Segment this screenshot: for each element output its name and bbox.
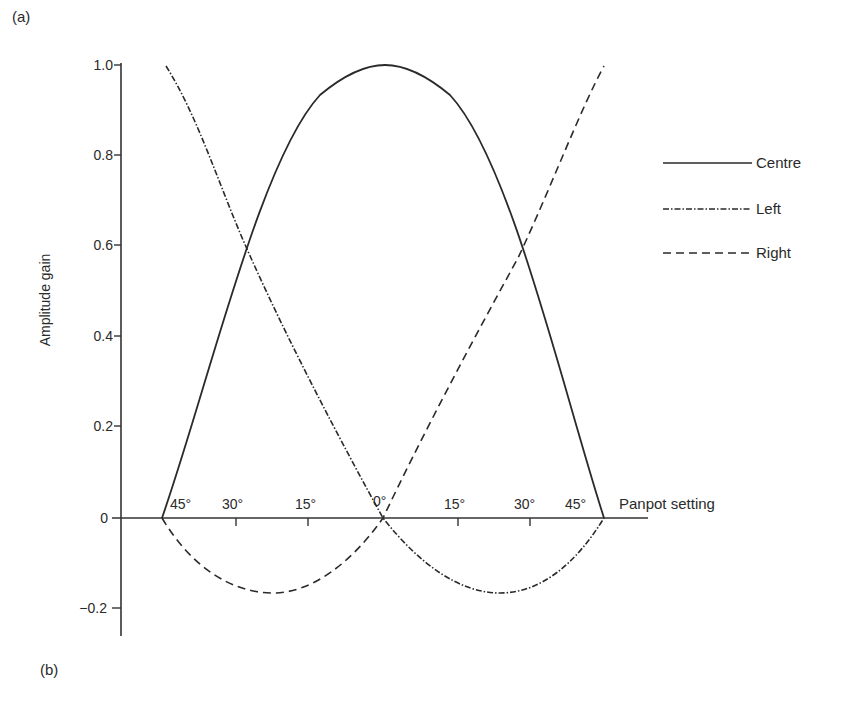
series-left-line xyxy=(166,66,604,593)
svg-text:−0.2: −0.2 xyxy=(79,600,107,616)
y-ticks xyxy=(112,65,121,608)
svg-text:30°: 30° xyxy=(222,496,243,512)
legend-left-label: Left xyxy=(756,200,782,217)
panpot-chart: (a) (b) 1.0 0.8 0.6 0.4 0.2 0 −0.2 Ampli… xyxy=(0,0,845,701)
svg-text:45°: 45° xyxy=(565,496,586,512)
svg-text:1.0: 1.0 xyxy=(94,57,114,73)
svg-text:0.8: 0.8 xyxy=(94,147,114,163)
svg-text:0.6: 0.6 xyxy=(94,237,114,253)
svg-text:30°: 30° xyxy=(514,496,535,512)
legend-centre-label: Centre xyxy=(756,154,801,171)
svg-text:15°: 15° xyxy=(444,496,465,512)
svg-text:0.2: 0.2 xyxy=(94,418,114,434)
svg-text:0.4: 0.4 xyxy=(94,328,114,344)
x-axis-label: Panpot setting xyxy=(619,495,715,512)
svg-text:15°: 15° xyxy=(295,496,316,512)
legend-right-label: Right xyxy=(756,244,792,261)
svg-text:0°: 0° xyxy=(373,493,386,509)
series-centre-line xyxy=(162,65,604,518)
svg-text:0: 0 xyxy=(100,510,108,526)
panel-label-a: (a) xyxy=(12,8,30,25)
y-axis-label: Amplitude gain xyxy=(37,254,53,347)
legend: Centre Left Right xyxy=(663,154,801,261)
series-right-line xyxy=(162,66,604,593)
svg-text:45°: 45° xyxy=(170,496,191,512)
panel-label-b: (b) xyxy=(40,661,58,678)
y-tick-labels: 1.0 0.8 0.6 0.4 0.2 0 −0.2 xyxy=(79,57,113,616)
